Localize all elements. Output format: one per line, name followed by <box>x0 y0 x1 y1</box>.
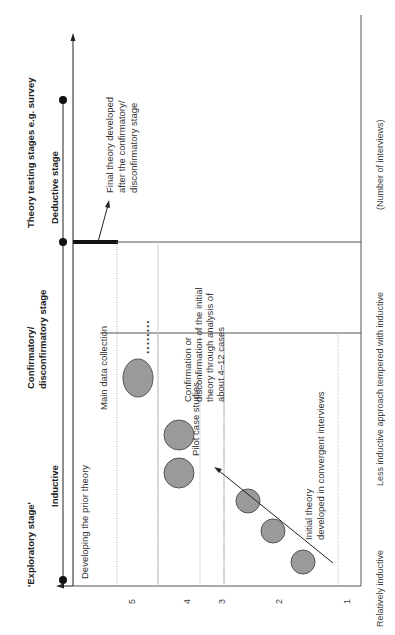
stage-marker-start <box>59 576 67 584</box>
label-inductive: Inductive <box>49 465 60 507</box>
label-deductive: Deductive stage <box>49 151 60 224</box>
tick-1: 1 <box>342 599 352 604</box>
arrow-head-left-icon <box>56 584 64 589</box>
label-initial-2: developed in convergent interviews <box>315 391 326 540</box>
pointer-head-icon <box>105 200 110 208</box>
tick-4: 4 <box>182 599 192 604</box>
footer-left: Relatively inductive <box>375 550 385 627</box>
tick-2: 2 <box>274 599 284 604</box>
label-confirm-4: about 4–12 cases <box>215 327 226 402</box>
main-data-ellipse <box>123 359 153 397</box>
trajectory-circle-1 <box>291 550 315 574</box>
stage-marker-deductive <box>59 238 67 246</box>
label-confirmatory-1: Confirmatory/ <box>25 326 36 389</box>
label-main-data: Main data collection <box>98 326 109 410</box>
final-theory-pointer <box>98 205 108 242</box>
footer-right: Less inductive approach tempered with in… <box>375 292 385 486</box>
footer-unit: (Number of interviews) <box>375 119 385 210</box>
trajectory-circle-2 <box>261 519 285 543</box>
stage-marker-end <box>59 96 67 104</box>
pilot-circle-2 <box>164 458 194 488</box>
label-confirmatory-2: disconfirmatory stage <box>37 290 48 389</box>
label-confirm-2: disconfirmation of the initial <box>193 287 204 402</box>
arrow-head-icon <box>71 33 76 41</box>
tick-5: 5 <box>127 599 137 604</box>
label-initial-1: Initial theory <box>303 489 314 540</box>
label-final-2: after the confirmatory/ <box>116 100 127 193</box>
research-process-diagram: 'Exploratory stage' Inductive Confirmato… <box>0 0 395 635</box>
ellipsis-dots: ........ <box>138 319 152 354</box>
label-confirm-1: Confirmation or <box>182 337 193 402</box>
tick-3: 3 <box>217 599 227 604</box>
label-final-3: disconfirmatory stage <box>128 103 139 193</box>
label-confirm-3: theory through analysis of <box>204 293 215 402</box>
label-exploratory: 'Exploratory stage' <box>25 502 36 587</box>
label-developing: Developing the prior theory <box>79 465 90 579</box>
label-theory-testing: Theory testing stages e.g. survey <box>25 77 36 228</box>
label-final-1: Final theory developed <box>104 97 115 193</box>
